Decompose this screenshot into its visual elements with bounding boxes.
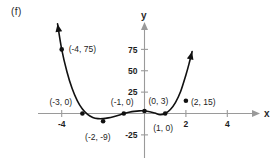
y-tick-label: -25 <box>125 130 138 140</box>
data-point-marker <box>59 47 64 52</box>
coordinate-plot: x y -424755025-25 (-4, 75)(-3, 0)(-2, -9… <box>0 0 276 158</box>
axis-ticks: -424755025-25 <box>58 45 230 141</box>
data-point-marker <box>101 119 106 124</box>
point-annotation-label: (-3, 0) <box>49 97 72 107</box>
x-tick-label: -4 <box>58 119 66 129</box>
x-axis-label: x <box>264 108 270 119</box>
point-annotation-label: (2, 15) <box>191 97 216 107</box>
data-point-marker <box>184 98 189 103</box>
data-point-marker <box>142 109 147 114</box>
y-axis: y <box>141 10 148 158</box>
x-axis-arrow-icon <box>252 110 260 117</box>
y-axis-label: y <box>141 10 147 21</box>
point-annotation-label: (0, 3) <box>149 96 169 106</box>
x-tick-label: 2 <box>184 119 189 129</box>
point-annotation-label: (-1, 0) <box>111 97 134 107</box>
point-annotation-label: (1, 0) <box>153 123 173 133</box>
x-tick-label: 4 <box>225 119 230 129</box>
figure-panel: (f) x y -424755025-25 (-4, 75)(-3, 0)(-2… <box>0 0 276 158</box>
data-point-marker <box>122 111 127 116</box>
y-tick-label: 50 <box>128 66 138 76</box>
y-tick-label: 75 <box>128 45 138 55</box>
data-point-marker <box>80 111 85 116</box>
data-point-marker <box>163 111 168 116</box>
left-branch-arrow-icon <box>56 24 63 32</box>
point-annotation-label: (-4, 75) <box>69 44 97 54</box>
y-axis-arrow-icon <box>141 22 148 30</box>
point-annotation-label: (-2, -9) <box>85 132 111 142</box>
